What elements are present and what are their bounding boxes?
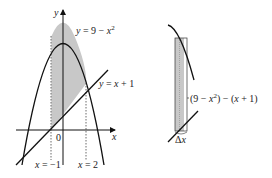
origin-label: 0 (56, 132, 61, 143)
height-label: (9 − x2) − (x + 1) (190, 92, 258, 105)
right-bound-label: x = 2 (77, 159, 98, 170)
line-label: y = x + 1 (98, 78, 134, 89)
y-axis-label: y (53, 7, 59, 18)
left-figure: y x 0 y = 9 − x2 y = x + 1 x = −1 x = 2 (16, 7, 134, 170)
area-between-curves-diagram: y x 0 y = 9 − x2 y = x + 1 x = −1 x = 2 … (0, 0, 272, 178)
left-bound-label: x = −1 (34, 159, 61, 170)
width-label: Δx (175, 134, 186, 145)
shaded-region (51, 22, 86, 130)
parabola-label: y = 9 − x2 (75, 24, 115, 36)
x-axis-label: x (111, 131, 117, 142)
right-figure: (9 − x2) − (x + 1) Δx (168, 25, 258, 145)
